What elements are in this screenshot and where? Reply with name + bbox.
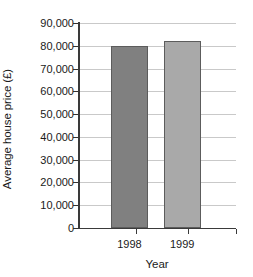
y-axis-tick-label: 40,000 bbox=[14, 131, 74, 143]
x-axis-line bbox=[78, 228, 236, 229]
gridline bbox=[78, 69, 236, 70]
gridline bbox=[78, 91, 236, 92]
y-axis-tick-label: 20,000 bbox=[14, 176, 74, 188]
gridline bbox=[78, 23, 236, 24]
gridline bbox=[78, 137, 236, 138]
gridline bbox=[78, 182, 236, 183]
x-axis-tick-label: 1999 bbox=[152, 238, 212, 251]
y-axis-tick-label: 80,000 bbox=[14, 40, 74, 52]
x-axis-tick-mark bbox=[136, 229, 137, 234]
y-axis-tick-label: 0 bbox=[14, 222, 74, 234]
gridline bbox=[78, 114, 236, 115]
y-axis-tick-label: 30,000 bbox=[14, 154, 74, 166]
y-axis-tick-label: 60,000 bbox=[14, 85, 74, 97]
x-axis-tick-mark bbox=[188, 229, 189, 234]
bar-1998 bbox=[111, 46, 148, 228]
x-axis-title: Year bbox=[78, 258, 236, 271]
y-axis-title: Average house price (£) bbox=[0, 14, 14, 244]
plot-area bbox=[78, 23, 236, 228]
y-axis-tick-label: 90,000 bbox=[14, 17, 74, 29]
bar-1999 bbox=[164, 41, 201, 228]
y-axis-tick-label: 10,000 bbox=[14, 199, 74, 211]
x-axis-tick-mark bbox=[236, 229, 237, 234]
y-axis-line bbox=[78, 22, 80, 229]
y-axis-tick-label-group: 010,00020,00030,00040,00050,00060,00070,… bbox=[14, 16, 74, 232]
bar-chart-figure: Average house price (£) 010,00020,00030,… bbox=[0, 0, 253, 277]
y-axis-tick-label: 50,000 bbox=[14, 108, 74, 120]
x-axis-tick-label: 1998 bbox=[100, 238, 160, 251]
y-axis-tick-label: 70,000 bbox=[14, 63, 74, 75]
gridline bbox=[78, 205, 236, 206]
gridline bbox=[78, 46, 236, 47]
gridline bbox=[78, 160, 236, 161]
